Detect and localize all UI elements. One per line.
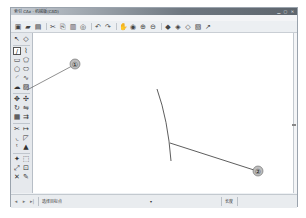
- drawn-line-leader[interactable]: [170, 143, 254, 170]
- annotation-overlay: ① ②: [0, 0, 306, 218]
- drawn-line-vertical[interactable]: [157, 89, 171, 161]
- callout-1-label: ①: [72, 61, 78, 69]
- scroll-thumb[interactable]: [292, 124, 296, 126]
- callout-2-label: ②: [255, 168, 261, 176]
- callout-1-leader: [27, 66, 72, 90]
